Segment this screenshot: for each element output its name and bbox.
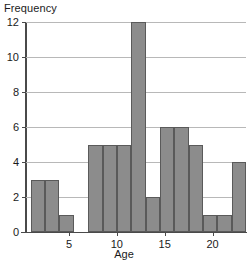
y-tick-mark	[22, 22, 26, 23]
histogram-bar	[174, 127, 188, 232]
y-tick-label: 2	[13, 191, 19, 203]
histogram-bar	[103, 145, 117, 233]
histogram-bar	[203, 215, 217, 233]
y-tick-mark	[22, 162, 26, 163]
histogram-bar	[45, 180, 59, 233]
plot-area: 024681012 5101520	[26, 22, 246, 232]
y-tick-mark	[22, 92, 26, 93]
histogram-bar	[146, 197, 160, 232]
x-tick-mark	[69, 232, 70, 236]
y-tick-label: 0	[13, 226, 19, 238]
y-tick-label: 6	[13, 121, 19, 133]
histogram-bar	[160, 127, 174, 232]
histogram-bar	[117, 145, 131, 233]
y-tick-mark	[22, 57, 26, 58]
histogram-bar	[31, 180, 45, 233]
y-tick-label: 8	[13, 86, 19, 98]
x-tick-mark	[165, 232, 166, 236]
y-tick-label: 12	[7, 16, 19, 28]
histogram-bar	[59, 215, 73, 233]
histogram-figure: Frequency 024681012 5101520 Age	[0, 0, 248, 269]
y-axis-label: Frequency	[4, 2, 57, 14]
histogram-bar	[217, 215, 231, 233]
histogram-bar	[232, 162, 246, 232]
y-tick-mark	[22, 127, 26, 128]
x-tick-mark	[213, 232, 214, 236]
y-tick-label: 4	[13, 156, 19, 168]
histogram-bar	[189, 145, 203, 233]
histogram-bar	[88, 145, 102, 233]
y-tick-mark	[22, 197, 26, 198]
histogram-bar	[131, 22, 145, 232]
y-tick-label: 10	[7, 51, 19, 63]
x-axis-label: Age	[0, 248, 248, 260]
x-tick-mark	[117, 232, 118, 236]
y-tick-mark	[22, 232, 26, 233]
